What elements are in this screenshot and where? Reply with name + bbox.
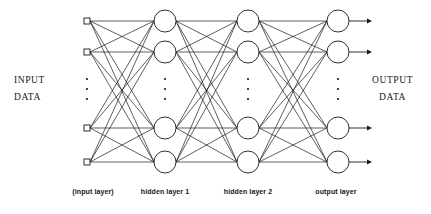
node-hidden-layer-1-2 xyxy=(154,41,176,63)
node-input-layer-1 xyxy=(84,18,90,24)
output-arrow-head-4 xyxy=(367,159,372,164)
ellipsis-dot-input-layer-3 xyxy=(86,98,88,100)
input-data-line-1: INPUT xyxy=(14,72,45,89)
neural-network-diagram: INPUT DATA OUTPUT DATA (input layer) hid… xyxy=(0,0,431,214)
node-hidden-layer-1-4 xyxy=(154,151,176,173)
caption-input-layer: (input layer) xyxy=(72,188,113,195)
caption-hidden-layer-1: hidden layer 1 xyxy=(141,188,189,195)
node-output-layer-1 xyxy=(327,10,349,32)
ellipsis-dot-hidden-layer-1-2 xyxy=(164,88,166,90)
node-hidden-layer-2-3 xyxy=(237,117,259,139)
node-output-layer-2 xyxy=(327,41,349,63)
node-hidden-layer-2-4 xyxy=(237,151,259,173)
ellipsis-dot-hidden-layer-2-2 xyxy=(247,88,249,90)
ellipsis-dot-hidden-layer-1-1 xyxy=(164,78,166,80)
output-arrow-head-1 xyxy=(367,18,372,23)
output-data-line-1: OUTPUT xyxy=(372,72,413,89)
ellipsis-dot-input-layer-1 xyxy=(86,78,88,80)
ellipsis-dot-output-layer-3 xyxy=(337,98,339,100)
ellipsis-dot-hidden-layer-2-3 xyxy=(247,98,249,100)
output-data-line-2: DATA xyxy=(372,89,413,106)
node-hidden-layer-2-2 xyxy=(237,41,259,63)
ellipsis-dot-hidden-layer-2-1 xyxy=(247,78,249,80)
ellipsis-dot-input-layer-2 xyxy=(86,88,88,90)
node-input-layer-3 xyxy=(84,125,90,131)
output-data-label: OUTPUT DATA xyxy=(372,72,413,106)
output-arrows-group xyxy=(349,18,372,164)
edges-group xyxy=(90,21,327,162)
output-arrow-head-3 xyxy=(367,125,372,130)
ellipsis-dot-hidden-layer-1-3 xyxy=(164,98,166,100)
node-input-layer-2 xyxy=(84,49,90,55)
ellipsis-dot-output-layer-1 xyxy=(337,78,339,80)
input-data-label: INPUT DATA xyxy=(14,72,45,106)
node-hidden-layer-1-3 xyxy=(154,117,176,139)
node-hidden-layer-2-1 xyxy=(237,10,259,32)
input-data-line-2: DATA xyxy=(14,89,45,106)
ellipsis-dot-output-layer-2 xyxy=(337,88,339,90)
caption-hidden-layer-2: hidden layer 2 xyxy=(224,188,272,195)
node-output-layer-3 xyxy=(327,117,349,139)
caption-output-layer: output layer xyxy=(315,188,356,195)
output-arrow-head-2 xyxy=(367,49,372,54)
node-output-layer-4 xyxy=(327,151,349,173)
node-input-layer-4 xyxy=(84,159,90,165)
node-hidden-layer-1-1 xyxy=(154,10,176,32)
network-graphic xyxy=(0,0,431,214)
